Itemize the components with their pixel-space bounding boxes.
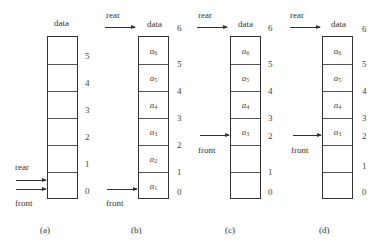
cell-4: a5 bbox=[139, 64, 168, 91]
cell-0 bbox=[231, 172, 260, 199]
queue-array: a6 a5 a4 a3 bbox=[230, 36, 261, 199]
rear-arrow-icon bbox=[197, 27, 227, 28]
index-1: 1 bbox=[85, 159, 90, 169]
rear-arrow-icon bbox=[290, 27, 320, 28]
cell-1 bbox=[231, 145, 260, 172]
front-arrow-icon bbox=[107, 189, 137, 190]
index-3: 3 bbox=[268, 113, 273, 123]
front-arrow-icon bbox=[200, 135, 229, 136]
panel-c: rear data 6 a6 a5 a4 a3 5 4 3 2 1 0 fron… bbox=[190, 0, 282, 249]
cell-1: a2 bbox=[139, 145, 168, 172]
index-5: 5 bbox=[362, 59, 367, 69]
panel-b: rear data 6 a6 a5 a4 a3 a2 a1 5 4 3 2 1 … bbox=[95, 0, 190, 249]
cell-2: a3 bbox=[323, 118, 352, 145]
index-0: 0 bbox=[85, 186, 90, 196]
index-0: 0 bbox=[362, 187, 367, 197]
rear-arrow-icon bbox=[16, 180, 46, 181]
front-label: front bbox=[198, 145, 216, 155]
rear-label: rear bbox=[106, 10, 120, 20]
cell-2 bbox=[48, 118, 77, 145]
cell-0 bbox=[323, 172, 352, 199]
rear-label: rear bbox=[15, 162, 29, 172]
cell-4: a5 bbox=[231, 64, 260, 91]
cell-1 bbox=[48, 145, 77, 172]
panel-caption: (d) bbox=[319, 225, 330, 235]
index-5: 5 bbox=[268, 59, 273, 69]
front-arrow-icon bbox=[293, 135, 321, 136]
data-header: data bbox=[147, 19, 162, 29]
cell-4: a5 bbox=[323, 64, 352, 91]
index-1: 1 bbox=[362, 161, 367, 171]
rear-label: rear bbox=[198, 10, 212, 20]
index-3: 3 bbox=[362, 113, 367, 123]
index-4: 4 bbox=[177, 86, 182, 96]
index-2: 2 bbox=[268, 131, 273, 141]
index-3: 3 bbox=[177, 113, 182, 123]
cell-4 bbox=[48, 64, 77, 91]
index-2: 2 bbox=[362, 131, 367, 141]
queue-array: a6 a5 a4 a3 a2 a1 bbox=[138, 36, 169, 199]
index-3: 3 bbox=[85, 105, 90, 115]
cell-3: a4 bbox=[231, 91, 260, 118]
index-0: 0 bbox=[177, 187, 182, 197]
cell-0: a1 bbox=[139, 172, 168, 199]
data-header: data bbox=[238, 19, 253, 29]
cell-5: a6 bbox=[323, 37, 352, 64]
index-4: 4 bbox=[362, 86, 367, 96]
index-1: 1 bbox=[177, 167, 182, 177]
index-2: 2 bbox=[177, 140, 182, 150]
cell-0 bbox=[48, 172, 77, 199]
panel-d: rear data 6 a6 a5 a4 a3 5 4 3 2 1 0 fron… bbox=[282, 0, 379, 249]
cell-3: a4 bbox=[139, 91, 168, 118]
cell-3 bbox=[48, 91, 77, 118]
cell-3: a4 bbox=[323, 91, 352, 118]
index-5: 5 bbox=[177, 59, 182, 69]
panel-caption: (b) bbox=[131, 225, 142, 235]
index-0: 0 bbox=[268, 187, 273, 197]
cell-5: a6 bbox=[139, 37, 168, 64]
cell-1 bbox=[323, 145, 352, 172]
front-arrow-icon bbox=[16, 189, 46, 190]
queue-array bbox=[47, 36, 78, 199]
index-1: 1 bbox=[268, 167, 273, 177]
rear-label: rear bbox=[290, 10, 304, 20]
panel-caption: (c) bbox=[225, 225, 235, 235]
index-2: 2 bbox=[85, 132, 90, 142]
cell-5 bbox=[48, 37, 77, 64]
index-6: 6 bbox=[177, 23, 182, 33]
panel-caption: (a) bbox=[40, 225, 50, 235]
index-5: 5 bbox=[85, 51, 90, 61]
front-label: front bbox=[15, 198, 33, 208]
index-4: 4 bbox=[85, 78, 90, 88]
panel-a: data 5 4 3 2 1 0 rear front (a) bbox=[0, 0, 95, 249]
cell-2: a3 bbox=[139, 118, 168, 145]
cell-2: a3 bbox=[231, 118, 260, 145]
front-label: front bbox=[106, 198, 124, 208]
index-4: 4 bbox=[268, 86, 273, 96]
data-header: data bbox=[54, 18, 69, 28]
data-header: data bbox=[331, 19, 346, 29]
rear-arrow-icon bbox=[105, 27, 135, 28]
front-label: front bbox=[291, 145, 309, 155]
cell-5: a6 bbox=[231, 37, 260, 64]
queue-array: a6 a5 a4 a3 bbox=[322, 36, 353, 199]
index-6: 6 bbox=[268, 23, 273, 33]
index-6: 6 bbox=[362, 24, 367, 34]
